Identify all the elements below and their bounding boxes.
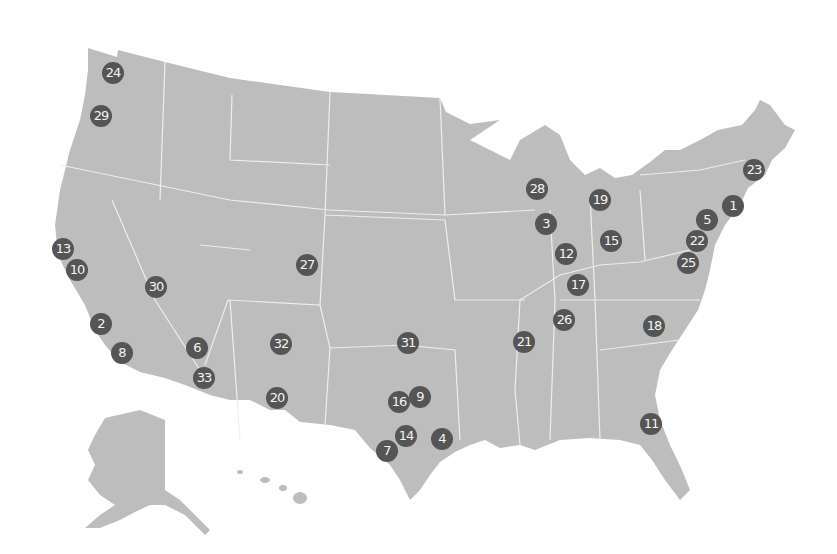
map-marker-4[interactable]: 4: [431, 428, 453, 450]
map-marker-9[interactable]: 9: [409, 386, 431, 408]
map-marker-18[interactable]: 18: [643, 315, 665, 337]
alaska-land: [85, 410, 210, 535]
map-marker-16[interactable]: 16: [388, 391, 410, 413]
map-marker-24[interactable]: 24: [102, 62, 124, 84]
map-marker-7[interactable]: 7: [376, 440, 398, 462]
us-map: [0, 0, 837, 554]
map-marker-6[interactable]: 6: [186, 337, 208, 359]
map-marker-19[interactable]: 19: [589, 189, 611, 211]
map-marker-2[interactable]: 2: [90, 313, 112, 335]
map-marker-14[interactable]: 14: [395, 425, 417, 447]
map-marker-13[interactable]: 13: [52, 238, 74, 260]
map-marker-30[interactable]: 30: [145, 276, 167, 298]
map-marker-23[interactable]: 23: [743, 159, 765, 181]
map-marker-28[interactable]: 28: [526, 178, 548, 200]
map-marker-25[interactable]: 25: [677, 252, 699, 274]
contiguous-us-land: [55, 48, 795, 500]
map-marker-29[interactable]: 29: [90, 105, 112, 127]
map-marker-26[interactable]: 26: [553, 309, 575, 331]
map-marker-17[interactable]: 17: [567, 274, 589, 296]
map-marker-3[interactable]: 3: [535, 213, 557, 235]
map-marker-32[interactable]: 32: [270, 333, 292, 355]
map-marker-10[interactable]: 10: [66, 259, 88, 281]
map-marker-22[interactable]: 22: [686, 230, 708, 252]
map-marker-1[interactable]: 1: [722, 195, 744, 217]
map-marker-12[interactable]: 12: [555, 243, 577, 265]
map-marker-31[interactable]: 31: [397, 332, 419, 354]
hawaii-land: [237, 470, 307, 504]
map-marker-15[interactable]: 15: [600, 230, 622, 252]
map-marker-8[interactable]: 8: [111, 342, 133, 364]
map-marker-27[interactable]: 27: [296, 254, 318, 276]
map-marker-33[interactable]: 33: [193, 367, 215, 389]
map-marker-20[interactable]: 20: [266, 387, 288, 409]
map-marker-11[interactable]: 11: [640, 413, 662, 435]
map-marker-5[interactable]: 5: [696, 209, 718, 231]
map-marker-21[interactable]: 21: [513, 331, 535, 353]
